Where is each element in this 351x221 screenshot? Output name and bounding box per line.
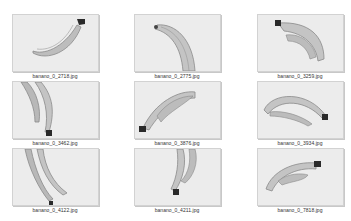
file-name-label: banano_0_3934.jpg bbox=[247, 140, 351, 146]
gallery-item[interactable]: banano_0_4211.jpg bbox=[134, 148, 220, 214]
banana-image-icon bbox=[13, 15, 98, 71]
gallery-item[interactable]: banano_0_4122.jpg bbox=[12, 148, 98, 214]
banana-image-thumbnail[interactable] bbox=[134, 81, 221, 139]
banana-image-thumbnail[interactable] bbox=[12, 14, 99, 72]
file-name-label: banano_0_3876.jpg bbox=[124, 140, 230, 146]
banana-image-thumbnail[interactable] bbox=[134, 14, 221, 72]
file-name-label: banano_0_4211.jpg bbox=[124, 207, 230, 213]
file-name-label: banano_0_2718.jpg bbox=[2, 73, 108, 79]
gallery-item[interactable]: banano_0_3934.jpg bbox=[257, 81, 343, 147]
file-name-label: banano_0_3462.jpg bbox=[2, 140, 108, 146]
file-name-label: banano_0_4122.jpg bbox=[2, 207, 108, 213]
file-name-label: banano_0_2775.jpg bbox=[124, 73, 230, 79]
banana-image-icon bbox=[258, 15, 343, 71]
banana-image-thumbnail[interactable] bbox=[257, 14, 344, 72]
gallery-item[interactable]: banano_0_3462.jpg bbox=[12, 81, 98, 147]
banana-image-thumbnail[interactable] bbox=[257, 81, 344, 139]
banana-image-icon bbox=[13, 82, 98, 138]
banana-image-icon bbox=[13, 149, 98, 205]
file-name-label: banano_0_3259.jpg bbox=[247, 73, 351, 79]
gallery-item[interactable]: banano_0_2775.jpg bbox=[134, 14, 220, 80]
banana-image-icon bbox=[258, 82, 343, 138]
banana-image-thumbnail[interactable] bbox=[257, 148, 344, 206]
file-name-label: banano_0_7818.jpg bbox=[247, 207, 351, 213]
gallery-item[interactable]: banano_0_2718.jpg bbox=[12, 14, 98, 80]
gallery-item[interactable]: banano_0_3259.jpg bbox=[257, 14, 343, 80]
banana-image-thumbnail[interactable] bbox=[134, 148, 221, 206]
banana-image-icon bbox=[135, 15, 220, 71]
gallery-item[interactable]: banano_0_7818.jpg bbox=[257, 148, 343, 214]
banana-image-icon bbox=[135, 82, 220, 138]
image-gallery: banano_0_2718.jpg banano_0_2775.jpg bana… bbox=[0, 0, 351, 221]
banana-image-thumbnail[interactable] bbox=[12, 81, 99, 139]
gallery-item[interactable]: banano_0_3876.jpg bbox=[134, 81, 220, 147]
banana-image-thumbnail[interactable] bbox=[12, 148, 99, 206]
banana-image-icon bbox=[258, 149, 343, 205]
banana-image-icon bbox=[135, 149, 220, 205]
